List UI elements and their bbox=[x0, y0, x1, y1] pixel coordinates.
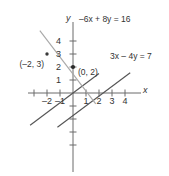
x-tick-label-4: 4 bbox=[122, 97, 127, 106]
point-label-neg2-3: (–2, 3) bbox=[19, 60, 44, 69]
y-tick-label-4: 4 bbox=[56, 37, 61, 46]
line-3x-minus-4y-equals-7 bbox=[57, 73, 130, 128]
point-label-0-2: (0, 2) bbox=[78, 68, 98, 77]
y-tick-label-1: 1 bbox=[56, 76, 61, 85]
graph-figure: y x 4 3 2 1 –2 –1 1 2 3 4 –6x + 8y = 16 … bbox=[0, 0, 169, 176]
y-axis-label: y bbox=[66, 14, 71, 23]
y-tick-label-2: 2 bbox=[56, 63, 61, 72]
equation-label-2: 3x – 4y = 7 bbox=[110, 52, 152, 61]
x-tick-label-1: 1 bbox=[83, 97, 88, 106]
x-tick-label-2: 2 bbox=[96, 97, 101, 106]
x-axis-label: x bbox=[143, 86, 148, 95]
point-marker-0-2 bbox=[71, 65, 75, 69]
x-tick-label-3: 3 bbox=[109, 97, 114, 106]
x-tick-label--1: –1 bbox=[55, 97, 65, 106]
x-tick-label--2: –2 bbox=[42, 97, 52, 106]
point-marker-neg2-3 bbox=[45, 52, 48, 55]
y-tick-label-3: 3 bbox=[56, 50, 61, 59]
equation-label-1: –6x + 8y = 16 bbox=[79, 15, 131, 24]
